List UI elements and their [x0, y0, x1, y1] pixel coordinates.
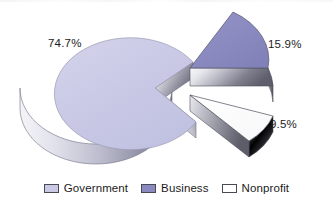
data-label-nonprofit: 9.5% — [270, 118, 297, 130]
legend-label-business: Business — [161, 182, 208, 194]
data-label-business: 15.9% — [268, 38, 302, 50]
legend-swatch-nonprofit-icon — [222, 184, 237, 193]
legend-label-nonprofit: Nonprofit — [242, 182, 290, 194]
legend-label-government: Government — [64, 182, 128, 194]
slice-business — [190, 12, 273, 102]
pie-chart-figure: 74.7% 15.9% 9.5% Government Business Non… — [0, 0, 333, 205]
slice-nonprofit — [190, 95, 273, 157]
slice-government-top — [54, 38, 196, 150]
legend-item-nonprofit[interactable]: Nonprofit — [222, 182, 290, 194]
legend-item-business[interactable]: Business — [141, 182, 208, 194]
slice-business-front-wall — [190, 68, 273, 86]
pie-plot-area: 74.7% 15.9% 9.5% — [0, 0, 333, 175]
legend-swatch-government-icon — [44, 184, 59, 193]
chart-legend: Government Business Nonprofit — [0, 177, 333, 199]
slice-business-top — [190, 12, 269, 68]
slice-government — [20, 38, 196, 164]
legend-swatch-business-icon — [141, 184, 156, 193]
legend-item-government[interactable]: Government — [44, 182, 128, 194]
pie-chart-svg — [0, 0, 333, 175]
data-label-government: 74.7% — [48, 37, 82, 49]
